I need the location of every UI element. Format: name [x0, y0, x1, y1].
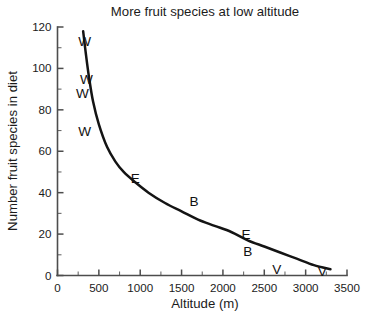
data-point-label-e: E [131, 171, 140, 186]
data-point-label-e: E [242, 227, 251, 242]
x-axis-label: Altitude (m) [171, 296, 238, 311]
data-point-label-w: W [78, 124, 91, 139]
y-tick-label: 100 [32, 61, 51, 74]
y-tick-label: 120 [32, 20, 51, 33]
y-tick-label: 20 [39, 227, 52, 240]
x-tick-label: 2500 [251, 281, 277, 294]
data-point-label-w: W [80, 72, 93, 87]
x-tick-label: 500 [89, 281, 108, 294]
x-tick-label: 1500 [169, 281, 195, 294]
x-tick-label: 2000 [210, 281, 236, 294]
data-point-label-v: V [318, 264, 327, 279]
y-tick-label: 80 [39, 103, 52, 116]
chart-background [0, 0, 368, 322]
x-tick-label: 1000 [127, 281, 153, 294]
x-tick-label: 3500 [334, 281, 360, 294]
x-tick-label: 0 [54, 281, 60, 294]
y-tick-label: 40 [39, 186, 52, 199]
y-axis-label: Number fruit species in diet [5, 71, 20, 231]
data-point-label-w: W [78, 34, 91, 49]
altitude-fruit-species-scatter-plot: More fruit species at low altitude 05001… [0, 0, 368, 322]
x-tick-label: 3000 [293, 281, 319, 294]
y-tick-label: 0 [45, 269, 51, 282]
chart-title: More fruit species at low altitude [111, 4, 299, 19]
data-point-label-b: B [243, 244, 252, 259]
data-point-label-v: V [272, 262, 281, 277]
data-point-label-b: B [189, 194, 198, 209]
chart-figure: More fruit species at low altitude 05001… [0, 0, 368, 322]
y-tick-label: 60 [39, 144, 52, 157]
data-point-label-w: W [76, 86, 89, 101]
